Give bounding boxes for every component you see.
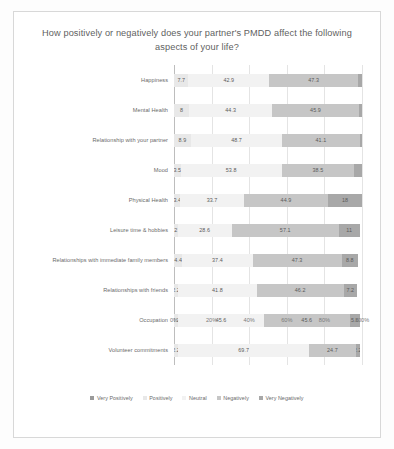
bar-value-label: 44.9 xyxy=(281,197,292,203)
bar-value-label: 2.2 xyxy=(356,347,360,353)
bar-segment: 7.2 xyxy=(344,284,358,297)
category-label: Physical Health xyxy=(129,197,168,203)
bar-row: Volunteer commitments2.269.724.72.2 xyxy=(174,344,362,357)
bar-segment: 28.6 xyxy=(178,224,232,237)
legend-item[interactable]: Very Positively xyxy=(90,395,132,401)
bar-value-label: 8 xyxy=(180,107,183,113)
legend-item[interactable]: Positively xyxy=(143,395,173,401)
bar-row: Leisure time & hobbies228.657.111 xyxy=(174,224,362,237)
bar-segment: 41.8 xyxy=(178,284,257,297)
bar-value-label: 47.3 xyxy=(292,257,303,263)
legend-label: Neutral xyxy=(189,395,207,401)
bar-value-label: 48.7 xyxy=(231,137,242,143)
x-axis-tick: 40% xyxy=(244,317,255,323)
bar-segment: 11 xyxy=(339,224,360,237)
bar-segment: 53.8 xyxy=(181,164,282,177)
chart-legend: Very PositivelyPositivelyNeutralNegative… xyxy=(14,395,380,401)
bar-row: Physical Health3.433.744.918 xyxy=(174,194,362,207)
bar-row: Relationships with immediate family memb… xyxy=(174,254,362,267)
screenshot-page: How positively or negatively does your p… xyxy=(0,0,394,449)
bar-segment: 8.8 xyxy=(342,254,359,267)
bar-segment: 48.7 xyxy=(191,134,283,147)
bar-segment: 69.7 xyxy=(178,344,309,357)
bar-value-label: 7.2 xyxy=(347,287,355,293)
category-label: Occupation xyxy=(139,317,168,323)
bar-row: Mood3.553.838.5 xyxy=(174,164,362,177)
bar-value-label: 44.3 xyxy=(225,107,236,113)
bar-row: Relationship with your partner8.948.741.… xyxy=(174,134,362,147)
bar-value-label: 42.9 xyxy=(223,77,234,83)
bar-segment: 45.9 xyxy=(272,104,358,117)
category-label: Leisure time & hobbies xyxy=(110,227,168,233)
chart-card: How positively or negatively does your p… xyxy=(13,11,381,438)
bar-segment xyxy=(360,134,362,147)
bar-segment: 44.9 xyxy=(244,194,328,207)
bar-row: Relationships with friends2.241.846.27.2 xyxy=(174,284,362,297)
bar-value-label: 7.7 xyxy=(177,77,185,83)
bar-segment: 3.5 xyxy=(174,164,181,177)
legend-label: Very Negatively xyxy=(265,395,303,401)
chart-title: How positively or negatively does your p… xyxy=(36,26,358,54)
bar-value-label: 37.4 xyxy=(212,257,223,263)
bar-value-label: 11 xyxy=(346,227,352,233)
bar-value-label: 38.5 xyxy=(313,167,324,173)
bar-segment xyxy=(358,74,362,87)
bar-value-label: 47.3 xyxy=(308,77,319,83)
category-label: Volunteer commitments xyxy=(109,347,169,353)
legend-swatch-icon xyxy=(90,396,94,400)
x-axis-tick: 0% xyxy=(170,317,178,323)
bar-value-label: 4.4 xyxy=(174,257,182,263)
bar-value-label: 53.8 xyxy=(226,167,237,173)
legend-swatch-icon xyxy=(182,396,186,400)
category-label: Relationships with friends xyxy=(103,287,168,293)
bar-segment: 38.5 xyxy=(282,164,354,177)
bar-value-label: 24.7 xyxy=(327,347,338,353)
x-axis-tick: 100% xyxy=(355,317,369,323)
bar-value-label: 45.9 xyxy=(310,107,321,113)
legend-item[interactable]: Very Negatively xyxy=(259,395,304,401)
bar-segment xyxy=(354,164,362,177)
bar-value-label: 28.6 xyxy=(199,227,210,233)
x-axis-tick: 60% xyxy=(281,317,292,323)
legend-label: Positively xyxy=(149,395,172,401)
category-label: Happiness xyxy=(141,77,168,83)
bar-segment: 18 xyxy=(328,194,362,207)
legend-item[interactable]: Neutral xyxy=(182,395,206,401)
bar-value-label: 41.8 xyxy=(212,287,223,293)
legend-label: Very Positively xyxy=(97,395,133,401)
bar-segment: 8.9 xyxy=(174,134,191,147)
bar-value-label: 33.7 xyxy=(207,197,218,203)
bar-segment: 47.3 xyxy=(253,254,342,267)
x-axis-tick: 80% xyxy=(319,317,330,323)
bar-segment: 8 xyxy=(174,104,189,117)
x-axis-tick: 20% xyxy=(206,317,217,323)
legend-label: Negatively xyxy=(223,395,249,401)
bar-value-label: 41.1 xyxy=(316,137,327,143)
bar-segment: 7.7 xyxy=(174,74,188,87)
bar-value-label: 69.7 xyxy=(238,347,249,353)
bar-row: Mental Health844.345.9 xyxy=(174,104,362,117)
bar-segment xyxy=(359,104,362,117)
bar-segment: 4.4 xyxy=(174,254,182,267)
category-label: Relationship with your partner xyxy=(93,137,169,143)
category-label: Mental Health xyxy=(133,107,168,113)
legend-swatch-icon xyxy=(143,396,147,400)
bar-segment: 46.2 xyxy=(257,284,344,297)
category-label: Mood xyxy=(154,167,168,173)
bar-value-label: 3.5 xyxy=(174,167,181,173)
bar-segment: 42.9 xyxy=(188,74,269,87)
bar-value-label: 46.2 xyxy=(295,287,306,293)
bar-value-label: 8.9 xyxy=(179,137,187,143)
bar-row: Happiness7.742.947.3 xyxy=(174,74,362,87)
legend-swatch-icon xyxy=(259,396,263,400)
bar-segment: 33.7 xyxy=(180,194,243,207)
bar-segment: 47.3 xyxy=(269,74,358,87)
bar-segment: 41.1 xyxy=(282,134,359,147)
bar-segment: 44.3 xyxy=(189,104,272,117)
bar-value-label: 18 xyxy=(342,197,348,203)
legend-item[interactable]: Negatively xyxy=(217,395,249,401)
legend-swatch-icon xyxy=(217,396,221,400)
bar-value-label: 57.1 xyxy=(280,227,291,233)
bar-segment: 57.1 xyxy=(232,224,339,237)
category-label: Relationships with immediate family memb… xyxy=(52,257,168,263)
